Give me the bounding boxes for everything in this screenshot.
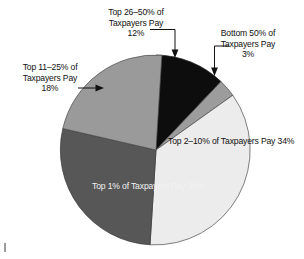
slice-label-top-11-25-line1: Top 11–25% of (2, 62, 98, 73)
slice-label-top-2-10: Top 2–10% of Taxpayers Pay 34% (168, 136, 260, 147)
slice-label-bottom-50-line1: Bottom 50% of (196, 28, 300, 39)
slice-label-top-11-25-line2: Taxpayers Pay (2, 73, 98, 84)
slice-label-top-1: Top 1% of Taxpayers Pay 34% (92, 181, 188, 192)
slice-label-bottom-50: Bottom 50% of Taxpayers Pay 3% (196, 28, 300, 60)
slice-label-top-1-value: 34% (188, 181, 205, 191)
slice-label-bottom-50-line2: Taxpayers Pay (196, 39, 300, 50)
pie-chart-figure: Top 26–50% of Taxpayers Pay 12% Bottom 5… (0, 0, 304, 259)
scan-artifact-mark (4, 243, 6, 252)
slice-label-top-26-50-value: 12% (88, 28, 184, 39)
slice-label-top-26-50-line2: Taxpayers Pay (88, 18, 184, 29)
slice-label-bottom-50-value: 3% (196, 49, 300, 60)
slice-label-top-1-line1: Top 1% of (92, 181, 129, 191)
slice-label-top-26-50: Top 26–50% of Taxpayers Pay 12% (88, 7, 184, 39)
slice-label-top-11-25: Top 11–25% of Taxpayers Pay 18% (2, 62, 98, 94)
slice-label-top-2-10-line1: Top 2–10% of (168, 136, 219, 146)
slice-label-top-26-50-line1: Top 26–50% of (88, 7, 184, 18)
slice-label-top-2-10-value: 34% (278, 136, 295, 146)
slice-label-top-2-10-line2: Taxpayers Pay (221, 136, 275, 146)
slice-label-top-11-25-value: 18% (2, 83, 98, 94)
slice-label-top-1-line2: Taxpayers Pay (131, 181, 185, 191)
